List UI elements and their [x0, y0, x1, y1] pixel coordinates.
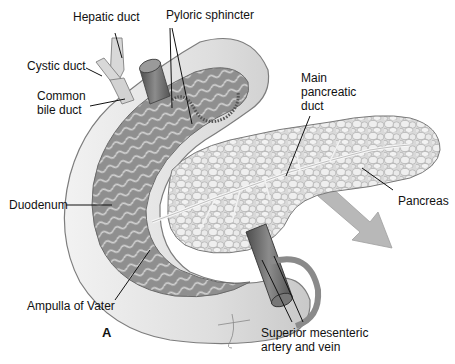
- label-pyloric-sphincter: Pyloric sphincter: [166, 8, 254, 22]
- label-cystic-duct: Cystic duct: [27, 59, 86, 73]
- label-duodenum: Duodenum: [9, 198, 68, 212]
- panel-letter: A: [102, 325, 111, 340]
- leader-cystic-duct: [86, 68, 102, 76]
- direction-arrow: [318, 186, 392, 248]
- label-ampulla-of-vater: Ampulla of Vater: [27, 299, 115, 313]
- label-common-bile-duct: Common bile duct: [37, 89, 97, 117]
- label-pancreas: Pancreas: [398, 194, 449, 208]
- label-main-pancreatic-duct: Main pancreatic duct: [301, 71, 363, 113]
- label-hepatic-duct: Hepatic duct: [73, 10, 140, 24]
- label-superior-mesenteric: Superior mesenteric artery and vein: [261, 326, 386, 354]
